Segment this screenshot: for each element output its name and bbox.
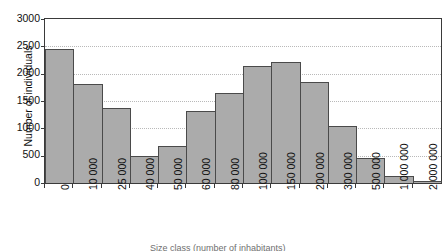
x-axis-tick-mark (270, 183, 271, 188)
x-axis-tick-label: 60 000 (200, 158, 212, 190)
x-axis-tick-mark (214, 183, 215, 188)
x-axis-tick-mark (157, 183, 158, 188)
x-axis-tick-mark (72, 183, 73, 188)
y-axis-tick-label: 2000 (6, 67, 40, 77)
x-axis-title: Size class (number of inhabitants) (150, 243, 410, 251)
x-axis-tick-mark (383, 183, 384, 188)
y-axis-tick-label: 1500 (6, 95, 40, 105)
histogram-figure: Number of individuals 300025002000150010… (0, 0, 444, 251)
x-axis-tick-label: 300 000 (342, 152, 354, 190)
bar (45, 49, 74, 183)
x-axis-tick-mark (327, 183, 328, 188)
x-axis-tick-mark (44, 183, 45, 188)
x-axis-tick-label: 10 000 (87, 158, 99, 190)
y-axis-tick-mark (41, 46, 45, 47)
x-axis-tick-mark (185, 183, 186, 188)
x-axis-tick-mark (129, 183, 130, 188)
x-axis-tick-label: 0 (59, 184, 71, 190)
y-axis-tick-mark (41, 19, 45, 20)
x-axis-tick-label: 100 000 (257, 152, 269, 190)
y-axis-tick-label: 0 (6, 177, 40, 187)
x-axis-tick-label: 25 000 (116, 158, 128, 190)
y-axis-tick-mark (41, 128, 45, 129)
y-axis-tick-label: 1000 (6, 122, 40, 132)
x-axis-tick-label: 50 000 (172, 158, 184, 190)
y-axis-tick-mark (41, 156, 45, 157)
x-axis-tick-label: 40 000 (144, 158, 156, 190)
x-axis-tick-mark (355, 183, 356, 188)
x-axis-tick-label: 80 000 (229, 158, 241, 190)
y-axis-tick-label: 2500 (6, 40, 40, 50)
y-axis-tick-label: 500 (6, 149, 40, 159)
x-axis-tick-mark (299, 183, 300, 188)
x-axis-tick-label: 150 000 (285, 152, 297, 190)
x-axis-tick-labels: 010 00025 00040 00050 00060 00080 000100… (44, 190, 440, 250)
x-axis-tick-label: 200 000 (314, 152, 326, 190)
y-axis-tick-mark (41, 74, 45, 75)
y-axis-tick-mark (41, 101, 45, 102)
x-axis-tick-label: 500 000 (370, 152, 382, 190)
y-axis-tick-labels: 300025002000150010005000 (4, 0, 40, 251)
x-axis-tick-label: 2 000 000 (427, 143, 439, 190)
plot-area (44, 18, 442, 184)
x-axis-tick-mark (412, 183, 413, 188)
x-axis-tick-mark (242, 183, 243, 188)
x-axis-tick-label: 1 000 000 (398, 143, 410, 190)
x-axis-tick-mark (101, 183, 102, 188)
y-axis-tick-label: 3000 (6, 13, 40, 23)
